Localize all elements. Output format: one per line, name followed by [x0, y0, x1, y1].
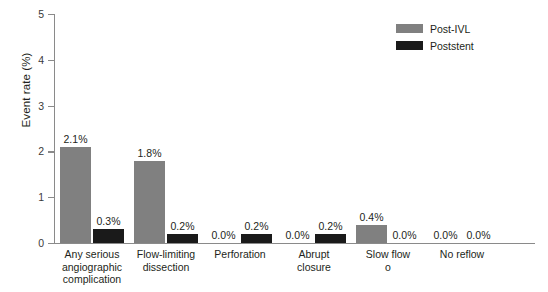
bar-chart: Event rate (%) 543210 2.1%1.8%0.0%0.0%0.… [0, 0, 548, 292]
bar [60, 147, 91, 243]
bar [167, 234, 198, 243]
bar-value-label: 1.8% [127, 147, 172, 159]
y-tick-label: 0 [26, 237, 44, 249]
bar-value-label: 2.1% [53, 133, 98, 145]
legend-item: Post-IVL [396, 22, 474, 35]
legend-swatch [396, 41, 423, 50]
y-axis-title: Event rate (%) [20, 20, 32, 160]
legend: Post-IVLPoststent [396, 22, 474, 56]
bar-value-label: 0.4% [349, 211, 394, 223]
bar-value-label: 0.2% [308, 220, 353, 232]
bar-value-label: 0.0% [382, 229, 427, 241]
y-tick-label: 1 [26, 191, 44, 203]
bar-value-label: 0.2% [160, 220, 205, 232]
bar-value-label: 0.0% [456, 229, 501, 241]
legend-swatch [396, 24, 423, 33]
legend-label: Poststent [430, 40, 474, 52]
x-axis-category-label-line: No reflow [417, 248, 507, 261]
bar [93, 229, 124, 243]
y-tick-label: 4 [26, 54, 44, 66]
bar [241, 234, 272, 243]
bar-value-label: 0.3% [86, 215, 131, 227]
x-axis-line [54, 243, 535, 244]
y-tick-label: 5 [26, 8, 44, 20]
bar-value-label: 0.2% [234, 220, 279, 232]
y-tick-label: 2 [26, 145, 44, 157]
bar [315, 234, 346, 243]
legend-item: Poststent [396, 39, 474, 52]
x-axis-category-label-line: o [343, 261, 433, 274]
x-axis-category-label-line: dissection [121, 261, 211, 274]
y-tick-label: 3 [26, 100, 44, 112]
x-axis-category-label-line: complication [47, 273, 137, 286]
x-axis-category-label: No reflow [417, 248, 507, 261]
legend-label: Post-IVL [430, 23, 470, 35]
